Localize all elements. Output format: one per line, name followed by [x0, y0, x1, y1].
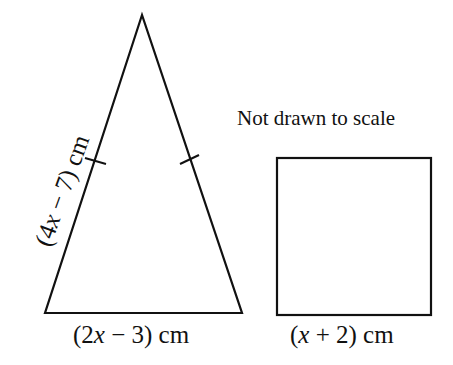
square	[277, 158, 431, 315]
triangle-base-label: (2x − 3) cm	[73, 321, 190, 349]
square-side-label: (x + 2) cm	[290, 321, 394, 349]
diagram-canvas: (4x − 7) cm (2x − 3) cm Not drawn to sca…	[0, 0, 453, 365]
scale-note: Not drawn to scale	[237, 106, 395, 130]
